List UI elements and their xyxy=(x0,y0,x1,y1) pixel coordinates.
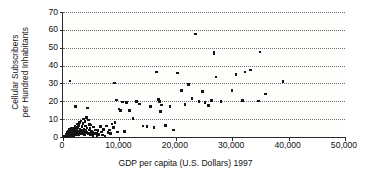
data-point xyxy=(84,120,87,123)
y-tick-mark xyxy=(60,101,64,102)
y-tick-label: 50 xyxy=(36,43,58,52)
data-point xyxy=(116,131,119,134)
data-point xyxy=(201,90,204,93)
data-point xyxy=(241,99,244,102)
data-point xyxy=(86,107,89,110)
data-point xyxy=(159,110,162,113)
data-point xyxy=(149,105,152,108)
x-axis-tick-labels: 010,00020,00030,00040,00050,000 xyxy=(0,141,371,155)
plot-area xyxy=(62,12,345,138)
data-point xyxy=(99,125,102,128)
data-point xyxy=(123,130,126,133)
data-point xyxy=(112,126,115,129)
y-tick-label: 60 xyxy=(36,25,58,34)
y-tick-label: 30 xyxy=(36,79,58,88)
data-point xyxy=(235,73,238,76)
gridline-y xyxy=(63,48,345,49)
data-point xyxy=(160,104,163,107)
data-point xyxy=(74,105,77,108)
y-axis-title: Cellular Subscribers per Hundred Inhabit… xyxy=(0,0,40,145)
y-tick-label: 10 xyxy=(36,115,58,124)
y-tick-mark xyxy=(60,66,64,67)
data-point xyxy=(257,100,260,103)
data-point xyxy=(69,80,72,83)
y-tick-mark xyxy=(60,119,64,120)
x-tick-label: 0 xyxy=(60,141,65,150)
data-point xyxy=(220,100,223,103)
data-point xyxy=(213,51,216,54)
y-tick-label: 40 xyxy=(36,61,58,70)
data-point xyxy=(97,129,100,132)
data-point xyxy=(119,109,122,112)
x-tick-label: 30,000 xyxy=(218,141,244,150)
data-point xyxy=(184,103,187,106)
data-point xyxy=(138,103,141,106)
y-tick-label: 70 xyxy=(36,8,58,17)
y-tick-label: 0 xyxy=(36,133,58,142)
y-tick-mark xyxy=(60,30,64,31)
data-point xyxy=(249,69,252,72)
data-point xyxy=(215,76,218,79)
data-point xyxy=(108,129,111,132)
data-point xyxy=(194,33,197,36)
gridline-y xyxy=(63,119,345,120)
data-point xyxy=(172,129,175,132)
data-point xyxy=(121,101,124,104)
data-point xyxy=(164,124,167,127)
data-point xyxy=(142,125,145,128)
data-point xyxy=(155,71,158,74)
data-point xyxy=(104,135,107,138)
data-point xyxy=(114,121,117,124)
x-tick-label: 10,000 xyxy=(105,141,131,150)
data-point xyxy=(198,100,201,103)
y-tick-mark xyxy=(60,48,64,49)
data-point xyxy=(87,119,90,122)
scatter-chart-figure: Cellular Subscribers per Hundred Inhabit… xyxy=(0,0,371,177)
y-axis-title-line2: per Hundred Inhabitants xyxy=(20,27,30,117)
data-point xyxy=(231,89,234,92)
y-tick-mark xyxy=(60,12,64,13)
data-point xyxy=(132,117,135,120)
data-point xyxy=(282,80,285,83)
data-point xyxy=(210,99,213,102)
data-point xyxy=(135,100,138,103)
data-point xyxy=(180,89,183,92)
data-point xyxy=(259,51,262,54)
data-point xyxy=(176,72,179,75)
x-tick-label: 40,000 xyxy=(274,141,300,150)
data-point xyxy=(125,101,128,104)
y-tick-label: 20 xyxy=(36,97,58,106)
data-point xyxy=(207,104,210,107)
data-point xyxy=(128,109,131,112)
gridline-y xyxy=(63,66,345,67)
data-point xyxy=(187,83,190,86)
gridline-y xyxy=(63,83,345,84)
data-point xyxy=(158,100,161,103)
data-point xyxy=(153,126,156,129)
gridline-y xyxy=(63,12,345,13)
x-axis-title: GDP per capita (U.S. Dollars) 1997 xyxy=(0,158,371,168)
y-axis-title-line1: Cellular Subscribers xyxy=(10,27,20,117)
x-tick-label: 50,000 xyxy=(331,141,357,150)
data-point xyxy=(113,82,116,85)
data-point xyxy=(102,128,105,131)
y-tick-mark xyxy=(60,83,64,84)
data-point xyxy=(191,97,194,100)
data-point xyxy=(115,99,118,102)
gridline-y xyxy=(63,30,345,31)
data-point xyxy=(109,132,112,135)
data-point xyxy=(146,125,149,128)
data-point xyxy=(169,105,172,108)
data-point xyxy=(264,93,267,96)
data-point xyxy=(204,101,207,104)
data-point xyxy=(244,71,247,74)
x-tick-label: 20,000 xyxy=(162,141,188,150)
data-point xyxy=(105,125,108,128)
data-point xyxy=(98,133,101,136)
